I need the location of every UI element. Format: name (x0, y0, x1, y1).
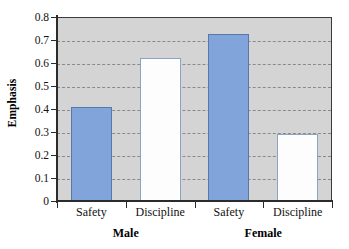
x-axis-category-label: Safety (76, 205, 107, 220)
y-axis-tick-label: 0.5 (35, 80, 49, 92)
y-axis-tick-label: 0 (43, 195, 49, 207)
x-axis-category-label: Discipline (273, 205, 322, 220)
y-axis-tickmark (51, 109, 57, 110)
x-axis-tickmark (263, 201, 264, 208)
y-axis-tick-label: 0.6 (35, 57, 49, 69)
x-axis-category-label: Discipline (135, 205, 184, 220)
x-axis-tickmark (332, 201, 333, 208)
gridline (57, 64, 331, 65)
x-axis-tickmark (57, 201, 58, 208)
y-axis-tick-label: 0.3 (35, 126, 49, 138)
y-axis-tick-labels: 0.80.70.60.50.40.30.20.10 (20, 17, 53, 201)
bar (277, 134, 318, 201)
bar (208, 34, 249, 201)
x-axis-tickmark (195, 201, 196, 208)
bar (71, 107, 112, 201)
x-axis-tickmark (126, 201, 127, 208)
y-axis-tick-label: 0.8 (35, 11, 49, 23)
y-axis-tick-label: 0.1 (35, 172, 49, 184)
x-axis-group-label: Male (113, 226, 139, 241)
y-axis-title: Emphasis (2, 0, 22, 205)
y-axis-tick-label: 0.4 (35, 103, 49, 115)
plot-area (57, 17, 332, 201)
y-axis-tick-label: 0.7 (35, 34, 49, 46)
y-axis-tickmark (51, 178, 57, 179)
bar-chart: Emphasis 0.80.70.60.50.40.30.20.10 Safet… (0, 0, 349, 249)
x-axis-category-label: Safety (214, 205, 245, 220)
y-axis-tickmark (51, 63, 57, 64)
y-axis-title-text: Emphasis (6, 78, 18, 127)
y-axis-tickmark (51, 86, 57, 87)
y-axis-tickmark (51, 40, 57, 41)
gridline (57, 87, 331, 88)
y-axis-tickmark (51, 17, 57, 18)
y-axis-tick-label: 0.2 (35, 149, 49, 161)
y-axis-tickmark (51, 132, 57, 133)
bar (140, 58, 181, 201)
gridline (57, 41, 331, 42)
y-axis-tickmark (51, 155, 57, 156)
x-axis-group-label: Female (245, 226, 282, 241)
